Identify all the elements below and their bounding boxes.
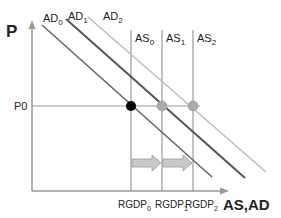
ad2-label-base: AD (103, 10, 118, 22)
rgdp0-label: RGDP0 (118, 199, 151, 212)
equilibrium-point-2 (188, 101, 198, 111)
rgdp2-label: RGDP2 (185, 199, 218, 212)
y-axis-arrow-icon (29, 20, 36, 29)
equilibrium-point-0 (126, 101, 136, 111)
rgdp1-label-base: RGDP (155, 199, 184, 210)
as0-label: AS0 (135, 32, 155, 47)
shift-arrow-icon (132, 155, 161, 171)
as2-label-sub: 2 (212, 38, 217, 47)
as1-label-sub: 1 (181, 38, 186, 47)
ad1-label-sub: 1 (83, 16, 88, 25)
ad2-label-sub: 2 (118, 16, 123, 25)
rgdp0-label-sub: 0 (147, 205, 151, 212)
rgdp2-label-base: RGDP (185, 199, 214, 210)
ad0-label-sub: 0 (58, 18, 63, 27)
as0-label-sub: 0 (150, 38, 155, 47)
as2-label: AS2 (197, 32, 217, 47)
as1-label: AS1 (166, 32, 186, 47)
ad0-label: AD0 (43, 12, 63, 27)
rgdp0-label-base: RGDP (118, 199, 147, 210)
rgdp1-label: RGDP1 (155, 199, 188, 212)
equilibrium-point-1 (157, 101, 167, 111)
ad0-label-base: AD (43, 12, 58, 24)
x-axis-label: AS,AD (223, 196, 270, 213)
y-axis-label: P (6, 22, 17, 41)
as2-label-base: AS (197, 32, 212, 44)
ad0-line (42, 25, 212, 177)
as1-label-base: AS (166, 32, 181, 44)
p0-label: P0 (14, 100, 27, 112)
as0-label-base: AS (135, 32, 150, 44)
ad1-label-base: AD (68, 10, 83, 22)
ad2-label: AD2 (103, 10, 123, 25)
ad1-line (66, 19, 245, 178)
x-axis-arrow-icon (220, 188, 229, 195)
shift-arrow-icon (163, 155, 192, 171)
rgdp2-label-sub: 2 (214, 205, 218, 212)
ad-as-diagram: P P0 AD0 AD1 AD2 AS0 AS1 AS2 RGDP0 RGDP1… (0, 0, 281, 218)
